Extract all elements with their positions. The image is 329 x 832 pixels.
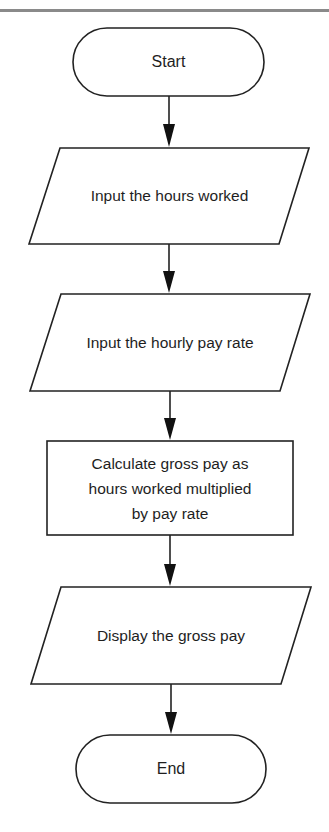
display-label: Display the gross pay [46, 587, 296, 684]
end-label: End [76, 735, 266, 803]
arrow-calculate-to-display [164, 535, 176, 586]
arrow-input-rate-to-calculate [164, 391, 176, 440]
input-hours-label: Input the hours worked [45, 148, 294, 244]
input-rate-label: Input the hourly pay rate [45, 294, 295, 391]
flowchart-canvas [0, 0, 329, 832]
calculate-label-line-3: by pay rate [132, 501, 209, 526]
arrow-input-hours-to-input-rate [163, 244, 175, 293]
calculate-label-line-2: hours worked multiplied [89, 476, 252, 501]
arrow-start-to-input-hours [163, 96, 175, 147]
calculate-label-line-1: Calculate gross pay as [92, 451, 249, 476]
start-label: Start [73, 28, 264, 96]
arrow-display-to-end [165, 684, 177, 734]
calculate-label: Calculate gross pay as hours worked mult… [47, 441, 293, 535]
